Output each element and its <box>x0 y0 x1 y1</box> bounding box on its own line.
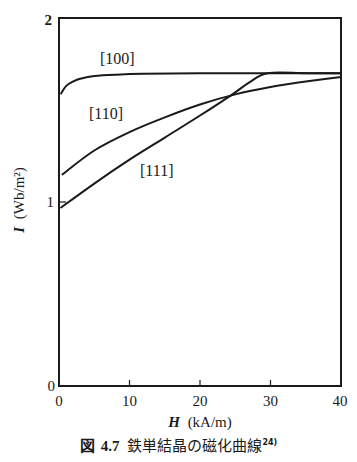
figure-caption: 図4.7鉄単結晶の磁化曲線24) <box>0 434 357 455</box>
figure-reference: 24) <box>262 438 277 447</box>
series-label-110: [110] <box>89 105 123 122</box>
y-tick-label-2: 2 <box>45 12 53 28</box>
x-tick-label-10: 10 <box>122 393 137 409</box>
x-tick-label-20: 20 <box>193 393 208 409</box>
curve-110 <box>63 77 342 174</box>
y-tick-label-1: 1 <box>47 194 55 210</box>
figure-prefix: 図 <box>80 437 95 455</box>
y-axis-variable: I <box>11 226 27 234</box>
y-axis-title: I (Wb/m²) <box>11 167 28 234</box>
x-tick-label-40: 40 <box>333 393 348 409</box>
x-tick-label-30: 30 <box>263 393 278 409</box>
y-axis-unit: (Wb/m²) <box>11 167 28 219</box>
x-axis-title: H (kA/m) <box>167 414 232 430</box>
figure-number: 4.7 <box>101 438 120 454</box>
x-axis-unit: (kA/m) <box>188 414 232 430</box>
series-lines <box>61 73 341 208</box>
magnetization-chart: 2 1 0 0 10 20 30 40 H (kA/m) I (Wb/m²) [… <box>0 0 357 430</box>
series-label-111: [111] <box>140 162 173 179</box>
curve-111 <box>61 73 341 208</box>
series-label-100: [100] <box>100 50 135 67</box>
x-axis-variable: H <box>167 414 181 430</box>
figure-title: 鉄単結晶の磁化曲線 <box>127 437 262 455</box>
y-tick-label-0: 0 <box>48 378 56 394</box>
x-tick-label-0: 0 <box>55 393 63 409</box>
